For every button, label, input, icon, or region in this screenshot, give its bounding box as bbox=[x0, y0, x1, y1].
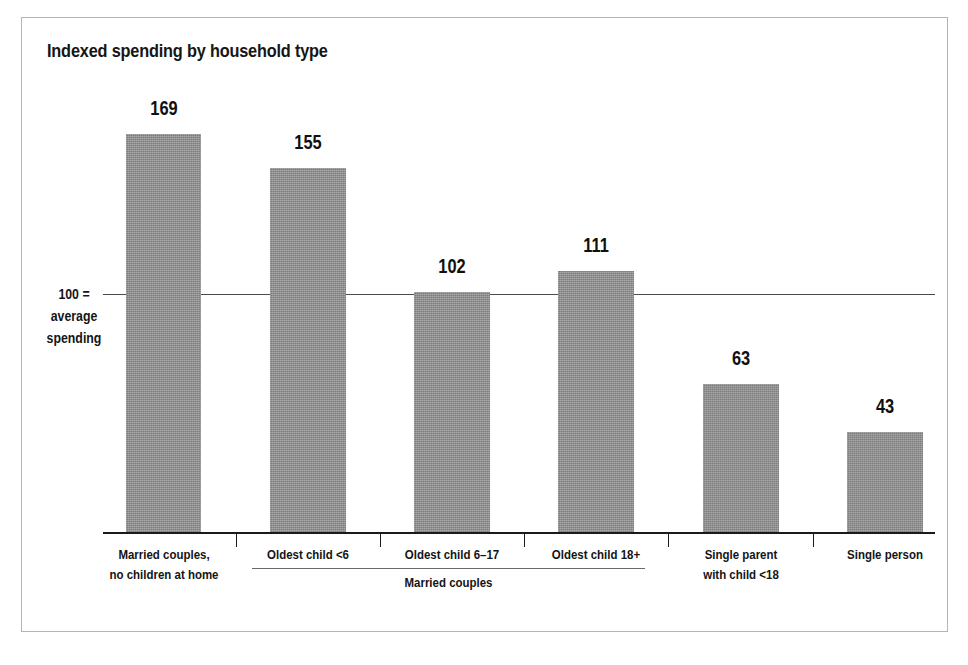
reference-annotation-line-1: 100 = bbox=[37, 283, 112, 305]
category-label-line-2: no children at home bbox=[109, 567, 218, 582]
bar-value-label: 169 bbox=[126, 97, 201, 120]
group-bracket-label: Married couples bbox=[281, 575, 615, 590]
bar-married-no-children bbox=[126, 134, 201, 533]
bar-value-label: 102 bbox=[414, 255, 489, 278]
bar-value-label: 43 bbox=[847, 395, 922, 418]
reference-line-100 bbox=[103, 294, 935, 295]
category-label-line-2: with child <18 bbox=[703, 567, 779, 582]
bar-oldest-child-18-plus bbox=[558, 271, 634, 533]
category-label-oldest-child-6-17: Oldest child 6–17 bbox=[379, 545, 525, 565]
bar-oldest-child-under-6 bbox=[270, 168, 346, 533]
group-bracket-line bbox=[252, 568, 645, 569]
reference-line-annotation: 100 = average spending bbox=[37, 283, 112, 349]
bar-single-person bbox=[847, 432, 923, 533]
bar-value-label: 155 bbox=[270, 131, 345, 154]
reference-annotation-line-2: average bbox=[37, 305, 112, 327]
category-label-married-no-children: Married couples, no children at home bbox=[91, 545, 237, 585]
category-label-line-1: Oldest child 6–17 bbox=[405, 547, 499, 562]
bar-value-label: 63 bbox=[703, 347, 778, 370]
axis-baseline bbox=[103, 532, 935, 534]
category-label-line-1: Married couples, bbox=[118, 547, 209, 562]
bar-value-label: 111 bbox=[558, 234, 633, 257]
bar-single-parent bbox=[703, 384, 779, 533]
category-label-line-1: Single parent bbox=[705, 547, 778, 562]
category-label-line-1: Oldest child 18+ bbox=[552, 547, 640, 562]
plot-area: 169 155 102 111 63 43 Married couples, n… bbox=[0, 0, 968, 665]
chart-page: Indexed spending by household type 169 1… bbox=[0, 0, 968, 665]
category-label-oldest-child-18-plus: Oldest child 18+ bbox=[523, 545, 669, 565]
category-label-single-person: Single person bbox=[812, 545, 958, 565]
category-label-line-1: Oldest child <6 bbox=[267, 547, 349, 562]
bar-oldest-child-6-17 bbox=[414, 292, 490, 533]
category-label-single-parent: Single parent with child <18 bbox=[668, 545, 814, 585]
reference-annotation-line-3: spending bbox=[37, 327, 112, 349]
category-label-line-1: Single person bbox=[847, 547, 923, 562]
category-label-oldest-child-under-6: Oldest child <6 bbox=[235, 545, 381, 565]
